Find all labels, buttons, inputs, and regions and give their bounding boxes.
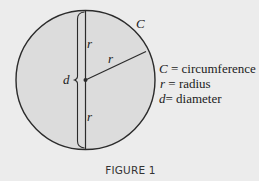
legend-meaning: circumference <box>182 61 256 76</box>
legend-equals: = <box>166 91 177 106</box>
legend-symbol: C <box>159 61 168 76</box>
legend-row-radius: r = radius <box>159 76 256 91</box>
legend-equals: = <box>165 76 179 91</box>
figure-caption: FIGURE 1 <box>0 164 259 176</box>
legend-equals: = <box>168 61 182 76</box>
legend: C = circumference r = radius d= diameter <box>159 61 256 106</box>
legend-meaning: diameter <box>176 91 221 106</box>
legend-meaning: radius <box>179 76 211 91</box>
figure-1: C r r r d C = circumference r = radius d… <box>0 0 259 181</box>
center-point <box>84 78 88 82</box>
label-circumference: C <box>136 16 145 31</box>
label-diameter: d <box>63 72 70 87</box>
legend-row-diameter: d= diameter <box>159 91 256 106</box>
legend-row-circumference: C = circumference <box>159 61 256 76</box>
